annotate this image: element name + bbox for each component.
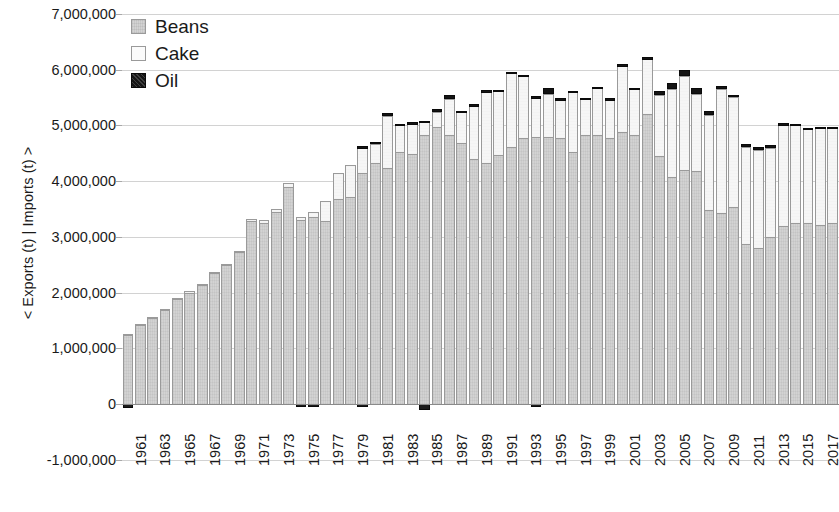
bar-segment-cake bbox=[172, 298, 183, 299]
bar-segment-cake bbox=[197, 284, 208, 285]
x-axis-tick-label: 2005 bbox=[678, 434, 692, 466]
bar-segment-beans bbox=[283, 187, 294, 404]
stacked-bar-chart: < Exports (t) | Imports (t) > 7,000,0006… bbox=[0, 0, 839, 512]
bar-segment-cake bbox=[753, 150, 764, 248]
x-axis-tick-label: 2013 bbox=[777, 434, 791, 466]
x-axis-tick-label: 1973 bbox=[282, 434, 296, 466]
bar-segment-cake bbox=[160, 309, 171, 310]
bar-segment-beans bbox=[184, 293, 195, 404]
bar-group bbox=[444, 0, 455, 460]
bar-segment-beans bbox=[197, 285, 208, 404]
bar-segment-oil bbox=[419, 121, 430, 124]
y-axis-tick-label: 3,000,000 bbox=[0, 230, 116, 244]
bar-segment-cake bbox=[432, 112, 443, 126]
bar-segment-beans bbox=[679, 170, 690, 404]
bar-segment-cake bbox=[629, 89, 640, 135]
bar-segment-cake bbox=[716, 89, 727, 213]
bar-segment-cake bbox=[246, 219, 257, 221]
bar-segment-beans bbox=[691, 171, 702, 404]
bar-segment-beans bbox=[790, 223, 801, 404]
bar-group bbox=[790, 0, 801, 460]
bar-segment-beans bbox=[555, 138, 566, 404]
legend-item-beans[interactable]: Beans bbox=[131, 13, 209, 40]
bar-group bbox=[827, 0, 838, 460]
bar-segment-oil bbox=[617, 64, 628, 67]
bar-segment-cake bbox=[259, 220, 270, 223]
bar-segment-cake bbox=[407, 123, 418, 154]
bar-segment-oil bbox=[679, 70, 690, 76]
bar-segment-oil bbox=[357, 146, 368, 149]
bar-segment-oil bbox=[543, 88, 554, 94]
beans-swatch bbox=[131, 19, 146, 34]
x-axis-tick-label: 1981 bbox=[381, 434, 395, 466]
bar-group bbox=[395, 0, 406, 460]
x-axis-tick-label: 1987 bbox=[455, 434, 469, 466]
y-axis-tick-label: 4,000,000 bbox=[0, 174, 116, 188]
bar-segment-beans bbox=[493, 155, 504, 404]
y-axis-tick-label: 2,000,000 bbox=[0, 286, 116, 300]
x-axis-tick-label: 1967 bbox=[208, 434, 222, 466]
x-axis-tick-label: 2011 bbox=[752, 435, 766, 466]
y-axis-tick-label: -1,000,000 bbox=[0, 453, 116, 467]
bar-segment-cake bbox=[469, 105, 480, 158]
bar-segment-cake bbox=[617, 65, 628, 132]
bar-group bbox=[803, 0, 814, 460]
bar-segment-beans bbox=[395, 152, 406, 404]
bar-segment-oil bbox=[667, 83, 678, 89]
x-axis-tick-label: 1969 bbox=[233, 434, 247, 466]
bar-segment-beans bbox=[803, 223, 814, 404]
bar-segment-beans bbox=[135, 325, 146, 404]
bar-segment-beans bbox=[469, 159, 480, 404]
bar-segment-cake bbox=[320, 201, 331, 222]
bar-group bbox=[728, 0, 739, 460]
bar-segment-beans bbox=[654, 156, 665, 404]
bar-segment-oil bbox=[790, 124, 801, 127]
bar-segment-beans bbox=[419, 135, 430, 404]
bar-segment-beans bbox=[568, 152, 579, 404]
bar-segment-cake bbox=[815, 128, 826, 225]
bar-group bbox=[493, 0, 504, 460]
bar-group bbox=[246, 0, 257, 460]
bar-group bbox=[469, 0, 480, 460]
bar-segment-cake bbox=[419, 122, 430, 135]
bar-segment-beans bbox=[778, 226, 789, 404]
bar-segment-cake bbox=[444, 99, 455, 135]
bar-group bbox=[642, 0, 653, 460]
bar-group bbox=[654, 0, 665, 460]
bar-segment-oil bbox=[481, 90, 492, 93]
bar-segment-oil bbox=[803, 128, 814, 131]
bar-segment-cake bbox=[456, 112, 467, 143]
bar-segment-beans bbox=[296, 220, 307, 404]
bar-segment-oil bbox=[382, 113, 393, 116]
bar-segment-beans bbox=[456, 143, 467, 404]
bar-segment-beans bbox=[234, 252, 245, 404]
bar-segment-cake bbox=[345, 165, 356, 197]
bar-segment-oil bbox=[444, 95, 455, 99]
x-axis-tick-label: 1993 bbox=[529, 434, 543, 466]
x-axis-tick-label: 1961 bbox=[134, 434, 148, 466]
bar-group bbox=[506, 0, 517, 460]
bar-segment-cake bbox=[555, 99, 566, 138]
bar-segment-beans bbox=[765, 237, 776, 404]
bar-segment-cake bbox=[580, 99, 591, 135]
bar-group bbox=[209, 0, 220, 460]
bar-group bbox=[419, 0, 430, 460]
x-axis-tick-label: 1999 bbox=[603, 434, 617, 466]
x-axis-tick-label: 1985 bbox=[430, 434, 444, 466]
y-axis-tick-label: 6,000,000 bbox=[0, 63, 116, 77]
bar-segment-beans bbox=[617, 132, 628, 404]
x-axis-tick-label: 1989 bbox=[480, 434, 494, 466]
legend-item-oil[interactable]: Oil bbox=[131, 67, 209, 94]
bar-segment-beans bbox=[333, 199, 344, 404]
bar-segment-oil bbox=[753, 147, 764, 150]
bar-group bbox=[753, 0, 764, 460]
bar-segment-beans bbox=[592, 135, 603, 404]
bar-segment-beans bbox=[123, 335, 134, 404]
bar-segment-beans bbox=[753, 248, 764, 404]
x-axis-tick-label: 1983 bbox=[406, 434, 420, 466]
bar-segment-cake bbox=[531, 98, 542, 138]
bar-segment-beans bbox=[506, 147, 517, 404]
bar-segment-beans bbox=[432, 127, 443, 404]
bar-segment-beans bbox=[531, 137, 542, 404]
legend-item-cake[interactable]: Cake bbox=[131, 40, 209, 67]
